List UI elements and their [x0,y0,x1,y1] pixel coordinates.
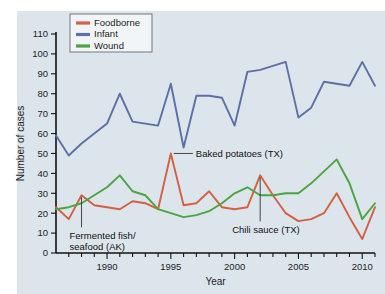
legend-label-wound: Wound [94,40,124,51]
series-line-foodborne [56,153,375,239]
chart-figure: 0102030405060708090100110199019952000200… [0,0,385,294]
series-line-infant [56,62,375,156]
annotation-baked-potatoes: Baked potatoes (TX) [196,148,283,159]
y-tick-label: 10 [37,227,48,238]
legend-label-infant: Infant [94,28,118,39]
x-tick-label: 2010 [352,261,373,272]
y-axis-title: Number of cases [15,106,26,182]
x-tick-label: 1995 [160,261,181,272]
y-tick-label: 90 [37,68,48,79]
x-tick-label: 1990 [96,261,117,272]
annotation-fermented-fish-line2: seafood (AK) [70,241,125,252]
y-tick-label: 80 [37,88,48,99]
line-chart: 0102030405060708090100110199019952000200… [0,0,385,294]
y-tick-label: 20 [37,208,48,219]
annotation-chili-sauce: Chili sauce (TX) [232,224,300,235]
y-tick-label: 50 [37,148,48,159]
y-tick-label: 100 [32,48,48,59]
y-tick-label: 70 [37,108,48,119]
series-line-wound [56,159,375,219]
y-tick-label: 30 [37,188,48,199]
x-tick-label: 2000 [224,261,245,272]
y-tick-label: 110 [33,28,48,39]
y-tick-label: 40 [37,168,48,179]
y-tick-label: 60 [37,128,48,139]
y-tick-label: 0 [43,247,48,258]
x-axis-title: Year [205,276,226,287]
legend-label-foodborne: Foodborne [94,17,140,28]
annotation-fermented-fish-line1: Fermented fish/ [70,230,136,241]
x-tick-label: 2005 [288,261,309,272]
